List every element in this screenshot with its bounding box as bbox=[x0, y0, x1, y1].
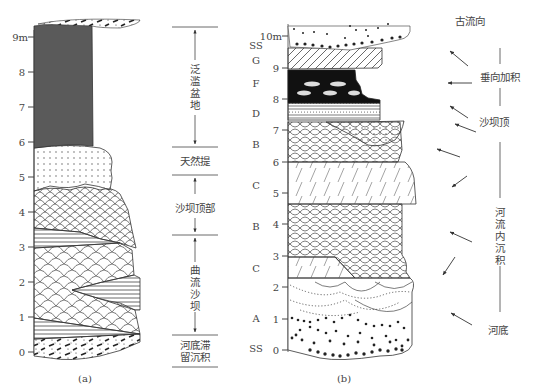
figure-a-column: 0 1 2 3 4 5 6 7 8 9m (a) bbox=[12, 19, 140, 384]
paleocurrent-header: 古流向 bbox=[455, 15, 485, 27]
interp-channel-base: 河底 bbox=[488, 324, 509, 336]
b-tick-7: 7 bbox=[273, 125, 279, 136]
facies-letter-f: F bbox=[253, 78, 260, 89]
zone-floodplain-char3: 盆 bbox=[190, 87, 201, 99]
tick-9m: 9m bbox=[12, 32, 28, 43]
zone-point-bar-char1: 曲 bbox=[190, 264, 200, 276]
b-tick-10m: 10m bbox=[260, 31, 283, 42]
b-tick-3: 3 bbox=[273, 251, 279, 262]
interp-channel-fill-char2: 流 bbox=[495, 218, 506, 230]
facies-letter-c-upper: C bbox=[252, 180, 260, 191]
facies-letter-ss-top: SS bbox=[249, 40, 263, 51]
facies-letter-a: A bbox=[251, 313, 260, 324]
zone-floodplain-char1: 泛 bbox=[190, 63, 201, 75]
b-tick-2: 2 bbox=[273, 282, 279, 293]
paleocurrent-arrow bbox=[443, 257, 455, 275]
facies-letter-g: G bbox=[252, 55, 260, 66]
facies-letter-b-upper: B bbox=[252, 139, 259, 150]
zone-point-bar-char3: 沙 bbox=[190, 288, 201, 300]
zone-lag-label-line2: 留沉积 bbox=[180, 351, 211, 363]
tick-6: 6 bbox=[19, 137, 25, 148]
figure-b-column: 0 1 2 3 4 5 6 7 8 9 10m SS G F D B C B C… bbox=[249, 23, 416, 384]
zone-floodplain-char2: 滥 bbox=[190, 75, 200, 87]
tick-2: 2 bbox=[19, 277, 25, 288]
b-tick-1: 1 bbox=[273, 314, 279, 325]
facies-letter-ss-bottom: SS bbox=[249, 343, 263, 354]
interp-bar-top: 沙坝顶 bbox=[479, 116, 510, 128]
tick-0: 0 bbox=[19, 347, 25, 358]
b-tick-0: 0 bbox=[273, 345, 279, 356]
figure-a-caption: (a) bbox=[78, 373, 92, 384]
paleocurrent-arrow bbox=[451, 313, 472, 325]
interp-channel-fill-char4: 沉 bbox=[495, 242, 506, 254]
paleocurrent-arrows bbox=[437, 51, 476, 325]
facies-c-upper-layer bbox=[288, 162, 416, 204]
interp-channel-fill-char5: 积 bbox=[495, 254, 506, 266]
facies-a-layer bbox=[288, 278, 414, 360]
paleocurrent-arrow bbox=[455, 124, 476, 132]
zone-floodplain-char4: 地 bbox=[190, 99, 201, 111]
facies-f-layer bbox=[288, 70, 380, 103]
paleocurrent-arrow bbox=[452, 176, 467, 187]
facies-letter-c-lower: C bbox=[252, 263, 260, 274]
floodplain-layer bbox=[34, 24, 93, 148]
tick-7: 7 bbox=[19, 102, 25, 113]
b-tick-4: 4 bbox=[273, 219, 279, 230]
b-tick-5: 5 bbox=[273, 188, 279, 199]
tick-1: 1 bbox=[19, 312, 25, 323]
paleocurrent-arrow bbox=[450, 51, 468, 66]
zone-point-bar-char2: 流 bbox=[190, 276, 201, 288]
zone-levee-label: 天然提 bbox=[180, 155, 211, 167]
figure-b-ticks: 0 1 2 3 4 5 6 7 8 9 10m bbox=[260, 31, 288, 356]
zone-lag-label-line1: 河底滞 bbox=[180, 339, 210, 351]
b-tick-6: 6 bbox=[273, 157, 279, 168]
paleocurrent-column: 古流向 垂向加积 沙坝顶 河 流 内 沉 积 河底 bbox=[437, 15, 521, 336]
figure-a-ticks: 0 1 2 3 4 5 6 7 8 9m bbox=[12, 32, 34, 358]
tick-4: 4 bbox=[19, 207, 25, 218]
paleocurrent-arrow bbox=[450, 106, 468, 118]
figure-b-caption: (b) bbox=[337, 373, 351, 384]
tick-5: 5 bbox=[19, 172, 25, 183]
facies-d-layer bbox=[288, 103, 380, 120]
tick-3: 3 bbox=[19, 242, 25, 253]
facies-letter-d: D bbox=[252, 108, 260, 119]
interp-channel-fill-char3: 内 bbox=[495, 230, 505, 242]
levee-layer bbox=[34, 146, 112, 192]
facies-letters: SS G F D B C B C A SS bbox=[249, 40, 263, 354]
stratigraphic-diagram: 0 1 2 3 4 5 6 7 8 9m (a) 泛 滥 盆 地 天然提 bbox=[0, 0, 543, 390]
facies-letter-b-lower: B bbox=[252, 221, 259, 232]
interp-channel-fill-char1: 河 bbox=[495, 206, 506, 218]
paleocurrent-arrow bbox=[450, 232, 472, 242]
b-tick-9: 9 bbox=[273, 63, 279, 74]
zone-bar-top-label: 沙坝顶部 bbox=[175, 202, 215, 214]
tick-8: 8 bbox=[19, 67, 25, 78]
interp-vertical-accretion: 垂向加积 bbox=[480, 71, 521, 83]
b-tick-8: 8 bbox=[273, 94, 279, 105]
facies-g-layer bbox=[288, 48, 382, 69]
zone-point-bar-char4: 坝 bbox=[190, 300, 200, 312]
paleocurrent-arrow bbox=[437, 149, 460, 157]
